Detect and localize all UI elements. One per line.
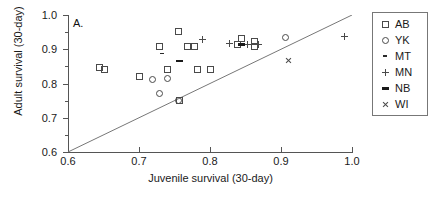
figure-panel-a: Adult survival (30-day) 1.00.90.80.70.60… <box>0 0 436 200</box>
legend-item-wi[interactable]: WI <box>373 96 427 112</box>
legend-box: ABYKMTMNNBWI <box>372 12 428 116</box>
legend-item-nb[interactable]: NB <box>373 80 427 96</box>
y-tick-major <box>63 152 68 153</box>
legend-item-mn[interactable]: MN <box>373 64 427 80</box>
data-point-yk <box>282 34 289 41</box>
legend-symbol-cross-x-icon <box>379 98 391 110</box>
legend-symbol-thick-dash-icon <box>379 82 391 94</box>
data-point-nb <box>176 60 183 63</box>
data-point-mn <box>199 36 206 43</box>
x-tick-label: 0.8 <box>190 156 230 167</box>
data-point-ab <box>164 66 171 73</box>
legend-symbol-small-dash-icon <box>379 50 391 62</box>
data-point-ab <box>101 66 108 73</box>
legend-label: MN <box>395 66 412 78</box>
x-tick-label: 0.6 <box>48 156 88 167</box>
data-point-ab <box>191 43 198 50</box>
y-tick-label: 1.0 <box>23 10 57 20</box>
legend-label: MT <box>395 50 411 62</box>
data-point-nb <box>238 43 245 46</box>
y-tick-label: 0.9 <box>23 44 57 54</box>
data-point-mt <box>160 53 164 55</box>
x-tick-label: 0.7 <box>119 156 159 167</box>
y-tick-label: 0.7 <box>23 113 57 123</box>
legend-item-yk[interactable]: YK <box>373 32 427 48</box>
data-point-mn <box>341 33 348 40</box>
y-axis-title-wrapper: Adult survival (30-day) <box>0 10 20 150</box>
legend-label: AB <box>395 18 410 30</box>
x-tick-label: 1.0 <box>332 156 372 167</box>
legend-label: NB <box>395 82 410 94</box>
plot-area <box>68 15 352 152</box>
x-tick-major <box>352 147 353 152</box>
data-point-ab <box>207 66 214 73</box>
data-point-ab <box>194 66 201 73</box>
data-point-yk <box>175 97 182 104</box>
x-axis-title: Juvenile survival (30-day) <box>68 172 353 184</box>
data-point-mn <box>255 41 262 48</box>
legend-item-ab[interactable]: AB <box>373 16 427 32</box>
data-point-ab <box>184 43 191 50</box>
data-point-mn <box>226 40 233 47</box>
data-point-ab <box>136 73 143 80</box>
legend-label: WI <box>395 98 408 110</box>
legend-item-mt[interactable]: MT <box>373 48 427 64</box>
data-point-wi <box>285 57 292 64</box>
legend-symbol-open-square-icon <box>379 18 391 30</box>
x-axis-line <box>68 152 353 153</box>
y-tick-label: 0.8 <box>23 79 57 89</box>
data-point-ab <box>175 28 182 35</box>
legend-symbol-plus-icon <box>379 66 391 78</box>
legend-label: YK <box>395 34 410 46</box>
reference-line-1to1 <box>68 15 352 152</box>
legend-symbol-open-circle-icon <box>379 34 391 46</box>
data-point-ab <box>156 43 163 50</box>
x-tick-label: 0.9 <box>261 156 301 167</box>
